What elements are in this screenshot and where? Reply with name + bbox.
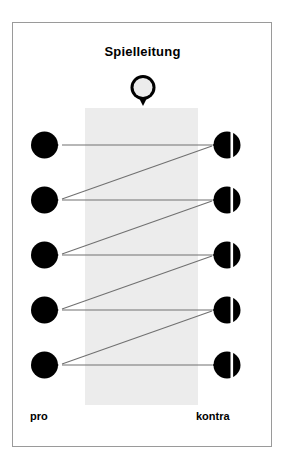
kontra-token-4[interactable] [209,293,243,327]
pro-token-1[interactable] [29,128,63,162]
return-diagonal-1 [62,146,212,199]
connection-lines [0,0,285,464]
pro-side-label: pro [30,410,48,422]
kontra-token-2[interactable] [209,183,243,217]
pro-token-2[interactable] [29,183,63,217]
kontra-token-3[interactable] [209,238,243,272]
pro-token-5[interactable] [29,348,63,382]
diagram-canvas: Spielleitung [0,0,285,464]
pro-token-3[interactable] [29,238,63,272]
return-diagonal-3 [62,256,212,309]
return-diagonal-2 [62,201,212,254]
pro-token-4[interactable] [29,293,63,327]
kontra-token-1[interactable] [209,128,243,162]
return-diagonal-4 [62,311,212,364]
kontra-side-label: kontra [196,410,230,422]
kontra-token-5[interactable] [209,348,243,382]
